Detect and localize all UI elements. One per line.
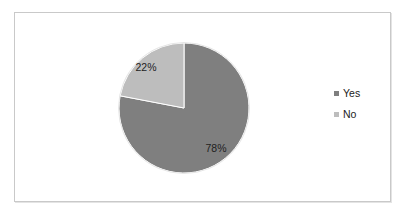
slice-label-no: 22% [135,61,156,73]
legend-swatch-yes-icon [334,91,339,96]
legend-swatch-no-icon [334,112,339,117]
legend-label-no: No [343,108,356,120]
chart-legend: Yes No [334,87,360,129]
legend-item-no: No [334,108,360,120]
legend-label-yes: Yes [343,87,360,99]
slice-label-yes: 78% [205,142,226,154]
legend-item-yes: Yes [334,87,360,99]
